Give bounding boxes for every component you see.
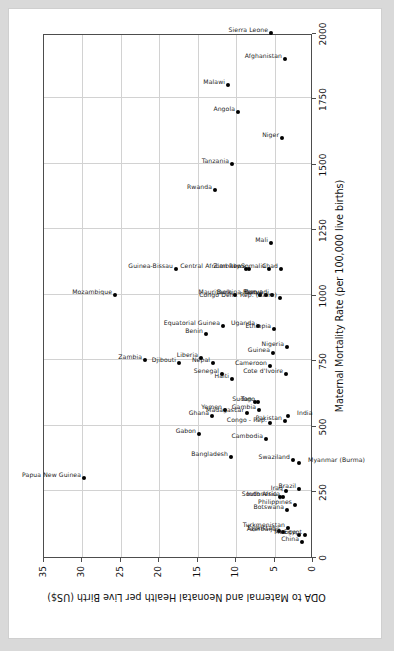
- x-axis-tick: [312, 360, 316, 361]
- y-axis-tick: [158, 558, 159, 562]
- data-point: [285, 507, 289, 511]
- data-point: [245, 410, 249, 414]
- data-point: [300, 540, 304, 544]
- y-axis-tick: [43, 558, 44, 562]
- y-axis-tick: [197, 558, 198, 562]
- data-point-label: South Africa: [242, 490, 280, 496]
- data-point: [211, 361, 215, 365]
- figure-sheet: Papua New GuineaMozambiqueZambiaGuinea-B…: [9, 9, 381, 638]
- data-point: [236, 109, 240, 113]
- gridline-vertical: [44, 359, 311, 360]
- data-point-label: Cameroon: [235, 359, 267, 365]
- y-axis-tick-label: 20: [153, 566, 163, 584]
- data-point-label: Philippines: [258, 498, 292, 504]
- gridline-horizontal: [121, 35, 122, 557]
- data-point: [268, 421, 272, 425]
- y-axis-tick-label: 25: [115, 566, 125, 584]
- x-axis-tick: [312, 426, 316, 427]
- data-point-label: Djibouti: [151, 357, 175, 363]
- data-point: [283, 57, 287, 61]
- data-point: [230, 376, 234, 380]
- data-point-label: Congo Dem. Rep. (Zaire): [199, 291, 277, 297]
- data-point-label: Mali: [256, 236, 269, 242]
- gridline-vertical: [44, 163, 311, 164]
- data-point: [279, 266, 283, 270]
- x-axis-tick: [312, 164, 316, 165]
- data-point-label: Benin: [185, 328, 203, 334]
- x-axis-tick: [312, 491, 316, 492]
- data-point-label: Equatorial Guinea: [164, 320, 220, 326]
- x-axis-tick-label: 0: [318, 555, 328, 561]
- data-point: [284, 371, 288, 375]
- rotated-figure-container: Papua New GuineaMozambiqueZambiaGuinea-B…: [29, 26, 361, 622]
- data-point-label: Zambia: [119, 354, 143, 360]
- data-point: [143, 358, 147, 362]
- data-point: [197, 431, 201, 435]
- data-point: [257, 408, 261, 412]
- data-point: [264, 437, 268, 441]
- data-point-label: Rwanda: [187, 184, 212, 190]
- x-axis-tick-label: 750: [318, 352, 328, 369]
- data-point-label: Mozambique: [72, 288, 112, 294]
- data-point-label: Papua New Guinea: [22, 472, 81, 478]
- data-point-label: Egypt: [283, 528, 301, 534]
- data-point-label: Pakistan: [256, 414, 282, 420]
- y-axis-tick-label: 0: [307, 566, 317, 584]
- data-point: [256, 400, 260, 404]
- data-point-label: Chad: [262, 262, 278, 268]
- x-axis-tick-label: 2000: [318, 22, 328, 45]
- x-axis-tick: [312, 229, 316, 230]
- y-axis-tick-label: 5: [269, 566, 279, 584]
- gridline-horizontal: [159, 35, 160, 557]
- data-point: [269, 240, 273, 244]
- data-point-label: Brazil: [279, 482, 297, 488]
- x-axis-tick-label: 1750: [318, 88, 328, 111]
- data-point: [82, 476, 86, 480]
- data-point: [280, 135, 284, 139]
- data-point-label: Bangladesh: [191, 451, 228, 457]
- page-background: Papua New GuineaMozambiqueZambiaGuinea-B…: [0, 0, 394, 651]
- data-point-label: Gambia: [232, 404, 256, 410]
- data-point: [283, 418, 287, 422]
- x-axis-title: Maternal Mortality Rate (per 100,000 liv…: [334, 34, 345, 558]
- data-point-label: Ethiopia: [245, 322, 271, 328]
- data-point: [213, 188, 217, 192]
- data-point-label: Nigeria: [261, 341, 284, 347]
- data-point-label: Angola: [214, 105, 236, 111]
- plot-area: Papua New GuineaMozambiqueZambiaGuinea-B…: [43, 34, 312, 558]
- data-point: [303, 533, 307, 537]
- y-axis-tick: [81, 558, 82, 562]
- data-point: [271, 350, 275, 354]
- x-axis-tick-label: 1000: [318, 284, 328, 307]
- gridline-vertical: [44, 97, 311, 98]
- y-axis-tick-label: 10: [230, 566, 240, 584]
- x-axis-tick-label: 250: [318, 483, 328, 500]
- data-point: [174, 266, 178, 270]
- data-point: [204, 332, 208, 336]
- y-axis-tick: [235, 558, 236, 562]
- data-point: [272, 327, 276, 331]
- data-point: [293, 502, 297, 506]
- data-point-label: China: [281, 536, 299, 542]
- data-point-label: Nepal: [192, 357, 210, 363]
- x-axis-tick: [312, 295, 316, 296]
- y-axis-title-wrapper: ODA to Maternal and Neonatal Health per …: [47, 589, 327, 608]
- data-point-label: Turkmenistan: [242, 522, 284, 528]
- data-point-label: Togo: [241, 396, 255, 402]
- data-point-label: Haiti: [215, 372, 230, 378]
- x-axis-tick-label: 1250: [318, 219, 328, 242]
- scatter-figure: Papua New GuineaMozambiqueZambiaGuinea-B…: [29, 26, 361, 622]
- data-point-label: Afghanistan: [245, 53, 282, 59]
- x-axis-tick: [312, 98, 316, 99]
- gridline-vertical: [44, 228, 311, 229]
- x-axis-tick-label: 1500: [318, 153, 328, 176]
- data-point: [284, 489, 288, 493]
- data-point-label: Tanzania: [201, 157, 228, 163]
- data-point: [230, 162, 234, 166]
- data-point: [229, 455, 233, 459]
- data-point-label: India: [297, 409, 312, 415]
- x-axis-tick: [312, 33, 316, 34]
- data-point-label: Niger: [262, 131, 279, 137]
- data-point: [291, 458, 295, 462]
- data-point: [177, 361, 181, 365]
